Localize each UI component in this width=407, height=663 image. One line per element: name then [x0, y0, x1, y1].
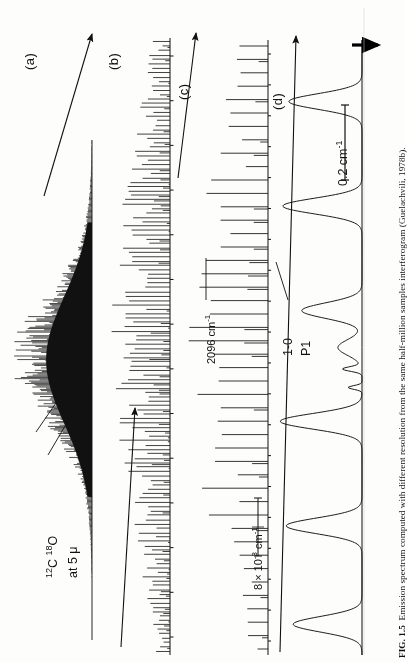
resolution-unit: cm — [252, 534, 264, 549]
sample-isotope-label: 12C 18O — [44, 536, 60, 578]
wavenumber-value: 2096 — [205, 340, 217, 364]
resolution-exponent: -3 — [250, 552, 259, 559]
branch-leader — [276, 262, 288, 300]
figure-caption-text: Emission spectrum computed with differen… — [397, 147, 407, 620]
sample-label-leader-2 — [36, 400, 58, 432]
scale-bar-exponent: -1 — [334, 140, 344, 148]
scale-bar-label: 0.2 cm-1 — [334, 140, 350, 186]
isotope-c-mass: 12 — [44, 568, 54, 578]
panel-label-c: (c) — [176, 83, 191, 100]
resolution-bar-label: 8 × 10-3 cm-1 — [250, 527, 264, 590]
axis-arrow-a — [44, 34, 92, 196]
wavenumber-unit: cm — [205, 322, 217, 337]
wavenumber-exponent: -1 — [203, 315, 212, 322]
scale-bar-unit: cm — [336, 148, 350, 165]
sample-label-leader — [48, 380, 92, 455]
axis-arrow-b — [121, 408, 135, 647]
isotope-o-mass: 18 — [44, 545, 54, 555]
sample-wavelength-label: at 5 μ — [66, 546, 80, 578]
figure-number: FIG. 1.5 — [397, 625, 407, 658]
scale-bar-value: 0.2 — [336, 169, 350, 186]
branch-label-line2: P1 — [299, 341, 313, 356]
panel-label-d: (d) — [270, 93, 285, 110]
resolution-unit-exponent: -1 — [250, 527, 259, 534]
figure-caption: FIG. 1.5 Emission spectrum computed with… — [397, 147, 407, 658]
element-o: O — [46, 536, 60, 546]
panel-label-a: (a) — [22, 53, 37, 70]
branch-label-line1: 1-0 — [281, 338, 295, 356]
axis-arrow-c — [178, 33, 196, 178]
element-c: C — [46, 559, 60, 568]
resolution-mantissa: 8 × 10 — [252, 559, 264, 590]
panel-label-b: (b) — [106, 53, 121, 70]
wavenumber-marker-label: 2096 cm-1 — [203, 315, 217, 364]
